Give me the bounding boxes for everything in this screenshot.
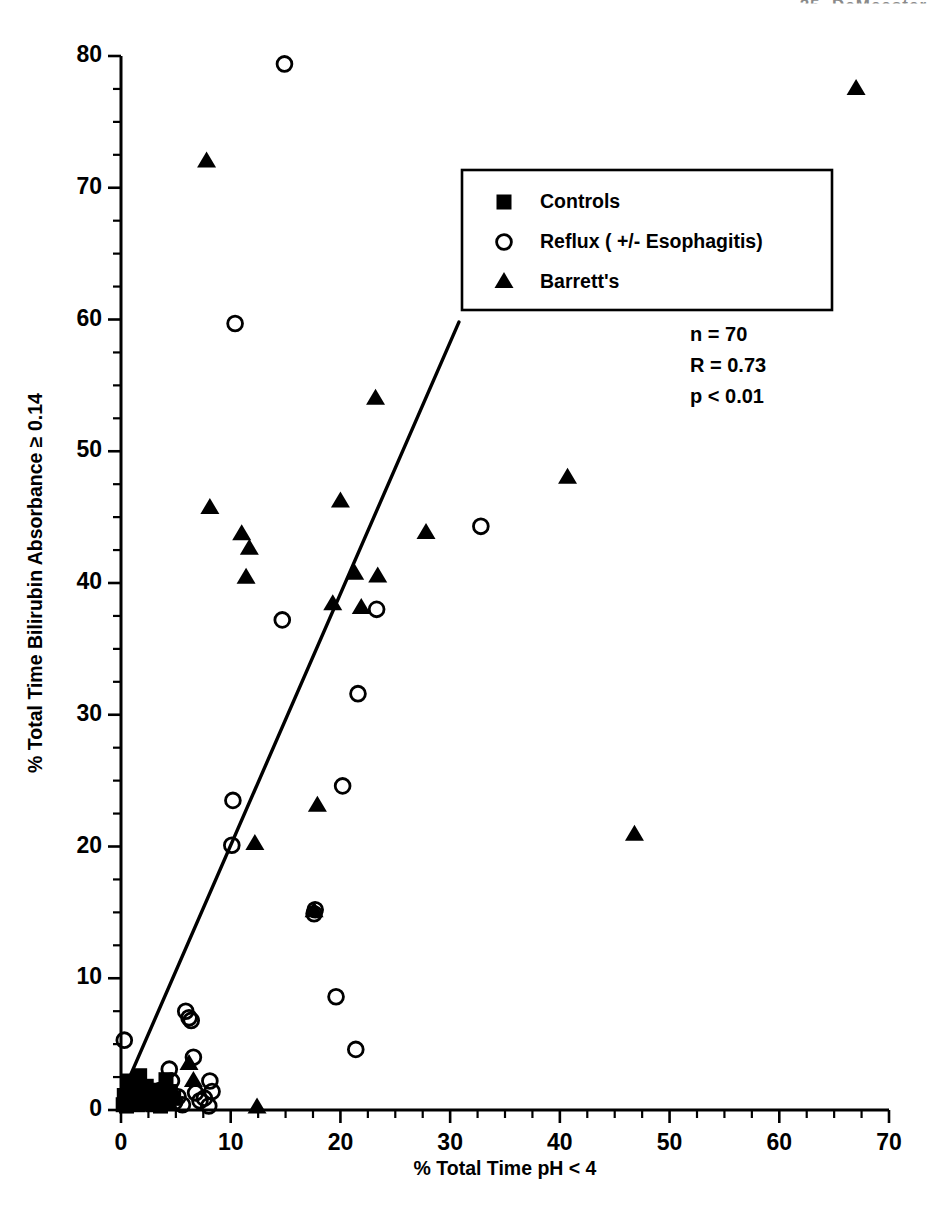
x-tick-label: 60 <box>766 1129 792 1155</box>
legend-label-2: Barrett's <box>540 270 620 292</box>
y-tick-label: 40 <box>76 568 102 594</box>
y-axis-title: % Total Time Bilirubin Absorbance ≥ 0.14 <box>24 393 46 773</box>
data-point-circle <box>473 519 488 534</box>
data-point-triangle <box>197 151 216 167</box>
x-tick-label: 30 <box>437 1129 463 1155</box>
data-point-triangle <box>331 491 350 507</box>
data-point-circle <box>348 1042 363 1057</box>
data-point-triangle <box>180 1054 199 1070</box>
y-tick-label: 10 <box>76 963 102 989</box>
regression-trend-line <box>121 322 459 1097</box>
data-point-triangle <box>237 568 256 584</box>
scatter-plot-figure: 010203040506070 01020304050607080 Contro… <box>0 0 941 1209</box>
data-point-circle <box>228 316 243 331</box>
data-point-circle <box>369 602 384 617</box>
x-tick-label: 20 <box>328 1129 354 1155</box>
y-tick-label: 70 <box>76 173 102 199</box>
data-point-circle <box>277 57 292 72</box>
data-point-triangle <box>558 468 577 484</box>
stat-r: R = 0.73 <box>690 354 766 376</box>
stat-n: n = 70 <box>690 323 747 345</box>
data-point-circle <box>351 686 366 701</box>
y-tick-label: 80 <box>76 41 102 67</box>
legend-label-0: Controls <box>540 190 620 212</box>
y-tick-label: 50 <box>76 436 102 462</box>
data-point-triangle <box>366 389 385 405</box>
data-point-triangle <box>200 498 219 514</box>
data-point-triangle <box>417 523 436 539</box>
y-tick-label: 60 <box>76 305 102 331</box>
legend-label-1: Reflux ( +/- Esophagitis) <box>540 230 763 252</box>
data-point-triangle <box>308 796 327 812</box>
x-axis-tick-labels: 010203040506070 <box>115 1129 902 1155</box>
chart-legend: ControlsReflux ( +/- Esophagitis)Barrett… <box>462 170 832 310</box>
x-tick-label: 70 <box>876 1129 902 1155</box>
data-point-triangle <box>625 825 644 841</box>
y-tick-label: 30 <box>76 700 102 726</box>
data-point-triangle <box>352 598 371 614</box>
regression-line <box>121 322 459 1097</box>
data-point-circle <box>275 612 290 627</box>
statistics-annotation: n = 70R = 0.73p < 0.01 <box>690 323 766 407</box>
stat-p: p < 0.01 <box>690 385 764 407</box>
data-point-circle <box>226 793 241 808</box>
data-point-circle <box>329 989 344 1004</box>
data-point-circle <box>117 1033 132 1048</box>
y-axis-ticks <box>108 56 121 1110</box>
series-group-1 <box>117 57 488 1114</box>
data-point-triangle <box>368 566 387 582</box>
chart-svg: 010203040506070 01020304050607080 Contro… <box>0 0 941 1209</box>
data-point-triangle <box>232 524 251 540</box>
x-tick-label: 0 <box>115 1129 128 1155</box>
x-tick-label: 50 <box>657 1129 683 1155</box>
data-point-triangle <box>248 1097 267 1113</box>
data-point-triangle <box>345 564 364 580</box>
data-point-triangle <box>184 1071 203 1087</box>
y-tick-label: 20 <box>76 832 102 858</box>
data-point-triangle <box>847 79 866 95</box>
x-axis-title: % Total Time pH < 4 <box>414 1157 597 1179</box>
data-point-triangle <box>245 834 264 850</box>
x-tick-label: 40 <box>547 1129 573 1155</box>
y-axis-tick-labels: 01020304050607080 <box>76 41 102 1121</box>
legend-marker-square <box>497 195 512 210</box>
data-point-triangle <box>240 539 259 555</box>
y-tick-label: 0 <box>89 1095 102 1121</box>
x-tick-label: 10 <box>218 1129 244 1155</box>
x-axis-ticks <box>121 1110 889 1123</box>
data-point-circle <box>335 778 350 793</box>
